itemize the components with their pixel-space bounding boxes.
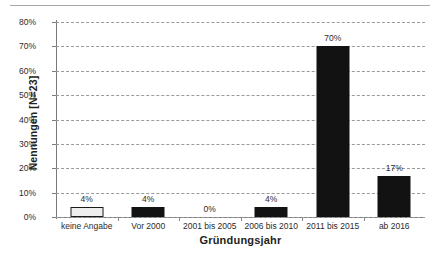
x-axis-tick-mark [302, 217, 303, 221]
bar-value-label: 4% [265, 194, 277, 204]
bar-slot: 4% [118, 22, 180, 217]
bar-slot: 4% [56, 22, 118, 217]
bar[interactable] [316, 46, 349, 217]
bar-value-label: 70% [324, 33, 341, 43]
bar-slot: 70% [302, 22, 364, 217]
bar-value-label: 4% [81, 194, 93, 204]
chart-page: Nennungen [N=23] 0%10%20%30%40%50%60%70%… [0, 0, 441, 258]
x-axis-tick-mark [179, 217, 180, 221]
x-axis-tick-label: 2011 bis 2015 [302, 221, 364, 231]
bar[interactable] [70, 207, 103, 217]
y-axis-tick-label: 70% [0, 41, 36, 51]
x-axis-tick-mark [118, 217, 119, 221]
bar-value-label: 0% [204, 204, 216, 214]
x-axis-title: Gründungsjahr [56, 234, 425, 246]
x-axis-tick-label: ab 2016 [364, 221, 426, 231]
bar-slot: 4% [241, 22, 303, 217]
bar[interactable] [378, 176, 411, 217]
x-axis-tick-label: 2001 bis 2005 [179, 221, 241, 231]
y-axis-tick-label: 20% [0, 163, 36, 173]
x-axis-tick-mark [364, 217, 365, 221]
y-axis-tick-label: 30% [0, 139, 36, 149]
bar[interactable] [255, 207, 288, 217]
top-divider-rule [10, 5, 430, 6]
bars-group: 4%4%0%4%70%17% [56, 22, 425, 217]
y-axis-tick-mark [52, 217, 56, 218]
bar-chart: Nennungen [N=23] 0%10%20%30%40%50%60%70%… [0, 12, 441, 258]
y-axis-tick-label: 60% [0, 66, 36, 76]
y-axis-tick-label: 50% [0, 90, 36, 100]
x-axis-tick-mark [241, 217, 242, 221]
y-axis-tick-label: 0% [0, 212, 36, 222]
y-axis-tick-label: 80% [0, 17, 36, 27]
bar-slot: 0% [179, 22, 241, 217]
y-axis-tick-label: 10% [0, 188, 36, 198]
x-axis-tick-label: 2006 bis 2010 [241, 221, 303, 231]
bar-value-label: 4% [142, 194, 154, 204]
bar-slot: 17% [364, 22, 426, 217]
bar-value-label: 17% [386, 163, 403, 173]
x-axis-tick-label: Vor 2000 [118, 221, 180, 231]
x-axis-tick-label: keine Angabe [56, 221, 118, 231]
bar[interactable] [132, 207, 165, 217]
y-axis-tick-label: 40% [0, 115, 36, 125]
